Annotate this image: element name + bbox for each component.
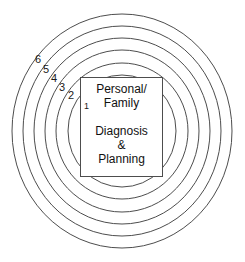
ring-label-5: 5 — [43, 64, 49, 75]
center-line-diagnosis: Diagnosis — [95, 124, 148, 138]
center-line-ampersand: & — [117, 138, 125, 152]
center-line-family: Family — [104, 96, 139, 110]
center-box-content: Personal/ Family Diagnosis & Planning — [82, 79, 161, 175]
center-line-personal: Personal/ — [96, 82, 147, 96]
concentric-ring-diagram: 6 5 4 3 2 1 Personal/ Family Diagnosis &… — [0, 0, 245, 262]
ring-label-2: 2 — [68, 90, 74, 101]
ring-label-3: 3 — [59, 82, 65, 93]
ring-label-4: 4 — [51, 73, 57, 84]
ring-label-6: 6 — [35, 54, 41, 65]
center-line-planning: Planning — [98, 152, 145, 166]
